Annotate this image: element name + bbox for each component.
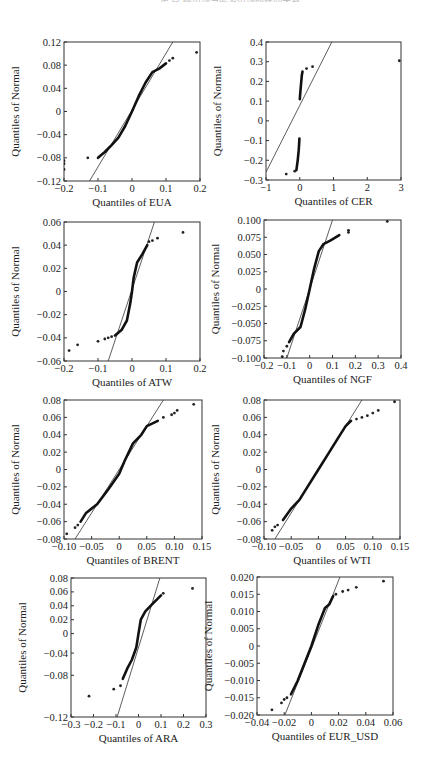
y-tick-label: −0.08 (37, 152, 61, 163)
x-tick-label: 0.3 (372, 360, 385, 371)
y-axis-title: Quantiles of Normal (16, 602, 28, 692)
x-tick-label: 0 (136, 719, 141, 730)
y-tick-label: 0.025 (237, 266, 261, 277)
x-tick-label: 0.15 (391, 541, 409, 552)
data-point (162, 416, 165, 419)
y-axis-title: Quantiles of Normal (9, 66, 21, 156)
y-tick-label: −0.010 (224, 675, 254, 686)
y-tick-label: −0.02 (37, 481, 61, 492)
qq-plot-atw: 0.060.040.020−0.02−0.04−0.06−0.2−0.100.1… (2, 214, 208, 401)
y-axis-title: Quantiles of Normal (211, 66, 223, 156)
x-tick-label: 0.1 (159, 363, 172, 374)
y-tick-label: 0.2 (250, 76, 263, 87)
data-point (107, 336, 110, 339)
y-tick-label: 0.06 (243, 412, 261, 423)
y-tick-label: −0.1 (244, 135, 263, 146)
y-tick-label: 0.04 (43, 240, 62, 251)
y-tick-label: 0.010 (230, 606, 254, 617)
qq-plot-eua: 0.120.080.040−0.04−0.08−0.12−0.2−0.100.1… (2, 34, 208, 221)
qq-plot-brent: 0.080.060.040.020−0.02−0.04−0.06−0.08−0.… (2, 392, 210, 579)
page-header-fragment: 第 章 碳市场与能源市场的联动关系 (160, 0, 410, 2)
x-tick-label: 0.2 (177, 719, 190, 730)
data-point (88, 695, 91, 698)
data-point (334, 593, 337, 596)
y-tick-label: 0.075 (237, 232, 261, 243)
sample-quantile-curve (98, 63, 166, 157)
data-point (97, 340, 100, 343)
y-tick-label: −0.005 (224, 658, 254, 669)
x-tick-label: −1 (260, 182, 271, 193)
data-point (366, 414, 369, 417)
x-tick-label: 0.1 (326, 360, 339, 371)
data-point (191, 587, 194, 590)
y-tick-label: −0.04 (237, 499, 262, 510)
y-tick-label: 0.04 (43, 83, 62, 94)
y-tick-label: −0.04 (37, 499, 62, 510)
x-tick-label: −0.2 (54, 363, 73, 374)
y-axis-title: Quantiles of Normal (209, 244, 221, 334)
qq-plot-ngf: 0.1000.0750.0500.0250−0.025−0.050−0.075−… (202, 212, 409, 398)
x-tick-label: 0 (129, 363, 134, 374)
sample-quantile-curve (283, 421, 351, 520)
data-point (398, 59, 401, 62)
x-tick-label: −0.1 (277, 360, 296, 371)
x-tick-label: −0.1 (88, 183, 107, 194)
y-tick-label: −0.2 (244, 155, 263, 166)
data-point (285, 173, 288, 176)
x-tick-label: 0 (117, 541, 122, 552)
y-tick-label: −0.075 (231, 335, 261, 346)
data-point (386, 220, 389, 223)
y-tick-label: 0.02 (43, 447, 61, 458)
y-tick-label: 0.050 (237, 249, 261, 260)
y-tick-label: 0.020 (230, 572, 254, 583)
data-point (76, 343, 79, 346)
y-axis-title: Quantiles of Normal (9, 246, 21, 336)
x-tick-label: −0.02 (272, 717, 296, 728)
qq-plot-ara: 0.080.060.040.020−0.04−0.08−0.12−0.3−0.2… (9, 570, 214, 757)
y-tick-label: 0.1 (250, 96, 263, 107)
data-point (282, 350, 285, 353)
y-tick-label: −0.04 (37, 332, 62, 343)
data-point (286, 696, 289, 699)
y-tick-label: 0.08 (50, 573, 68, 584)
x-tick-label: 0.10 (364, 541, 382, 552)
y-tick-label: 0.3 (250, 56, 263, 67)
x-tick-label: 0.4 (394, 360, 408, 371)
data-point (110, 335, 113, 338)
plot-frame (266, 42, 401, 180)
y-axis-title: Quantiles of Normal (9, 424, 21, 514)
x-tick-label: −0.1 (106, 719, 125, 730)
plot-frame (257, 577, 393, 715)
reference-line (117, 578, 160, 717)
data-point (355, 586, 358, 589)
x-axis-title: Quantiles of WTI (293, 554, 371, 566)
data-point (273, 525, 276, 528)
x-tick-label: 0.05 (138, 541, 156, 552)
data-point (305, 67, 308, 70)
y-tick-label: −0.04 (44, 648, 69, 659)
x-tick-label: −0.3 (61, 719, 80, 730)
y-tick-label: −0.08 (44, 670, 68, 681)
y-tick-label: 0 (56, 464, 61, 475)
x-tick-label: 0.05 (336, 541, 354, 552)
reference-line (75, 400, 163, 539)
data-point (293, 170, 296, 173)
x-axis-title: Quantiles of ARA (99, 732, 178, 744)
data-point (355, 418, 358, 421)
plot-frame (64, 400, 202, 539)
qq-plot-cer: 0.40.30.20.10−0.1−0.2−0.3−10123Quantiles… (204, 34, 409, 220)
data-point (156, 237, 159, 240)
y-tick-label: 0 (56, 106, 61, 117)
x-tick-label: 0.04 (357, 717, 376, 728)
y-tick-label: −0.015 (224, 692, 254, 703)
data-point (371, 412, 374, 415)
y-tick-label: 0.04 (50, 600, 69, 611)
data-point (76, 524, 79, 527)
x-tick-label: −0.2 (84, 719, 103, 730)
data-point (86, 156, 89, 159)
data-point (162, 592, 165, 595)
data-point (192, 403, 195, 406)
data-point (285, 345, 288, 348)
x-tick-label: −0.1 (88, 363, 107, 374)
y-tick-label: −0.02 (37, 309, 61, 320)
